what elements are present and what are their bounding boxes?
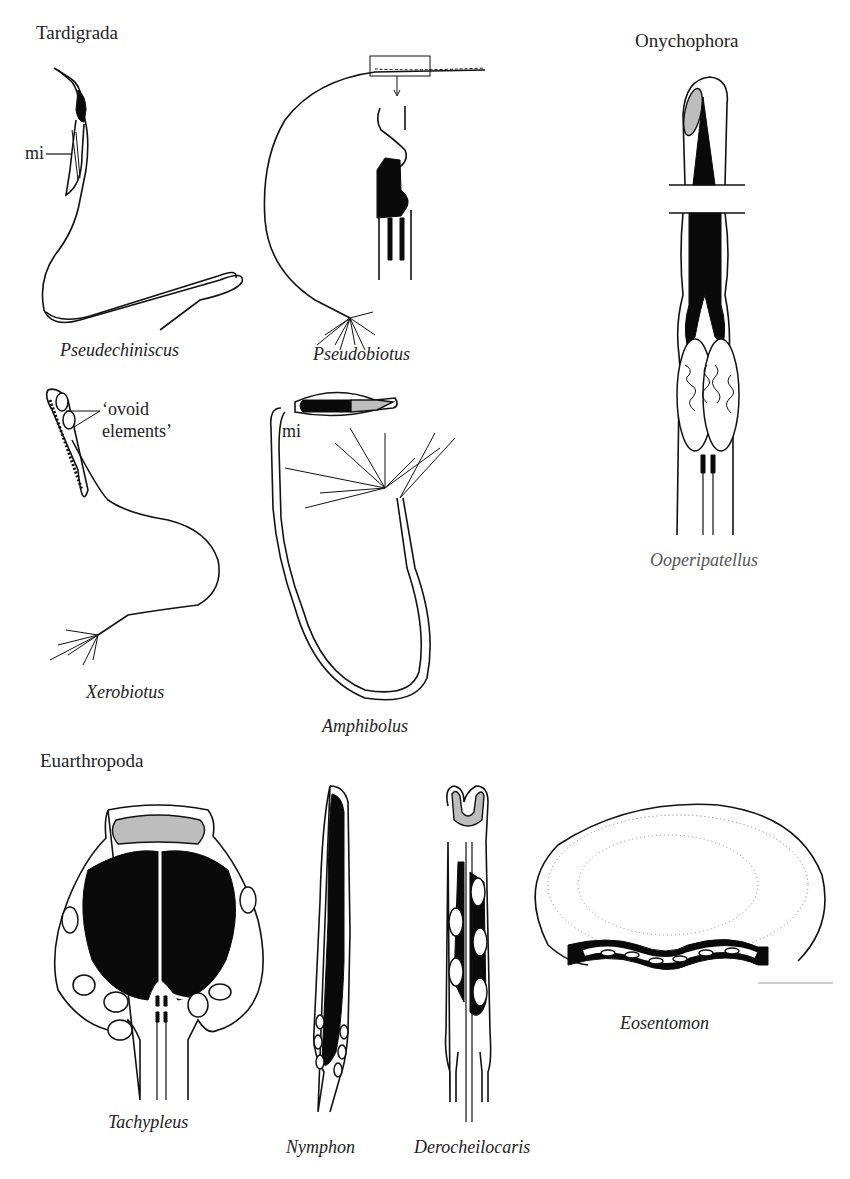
taxon-label-pseudechiniscus: Pseudechiniscus	[60, 340, 179, 361]
taxon-label-tachypleus: Tachypleus	[108, 1112, 188, 1133]
group-title-tardigrada: Tardigrada	[36, 22, 118, 44]
taxon-label-amphibolus: Amphibolus	[322, 716, 408, 737]
ooperipatellus-sperm-drawing	[665, 75, 795, 565]
taxon-label-ooperipatellus: Ooperipatellus	[650, 550, 758, 571]
ovoid-elements-label: ‘ovoid elements’	[102, 398, 172, 442]
derocheilocaris-sperm-drawing	[440, 782, 500, 1122]
taxon-label-xerobiotus: Xerobiotus	[86, 682, 164, 703]
group-title-onychophora: Onychophora	[635, 30, 738, 52]
group-title-euarthropoda: Euarthropoda	[40, 750, 143, 772]
taxon-label-nymphon: Nymphon	[286, 1137, 355, 1158]
taxon-label-eosentomon: Eosentomon	[620, 1013, 709, 1034]
ovoid-elements-line-1: ‘ovoid	[102, 398, 172, 420]
taxon-label-derocheilocaris: Derocheilocaris	[414, 1137, 530, 1158]
mi-label-amphibolus: mi	[282, 420, 301, 442]
pseudechiniscus-sperm-drawing	[30, 60, 290, 360]
tachypleus-sperm-drawing	[48, 800, 278, 1120]
ovoid-elements-line-2: elements’	[102, 420, 172, 442]
eosentomon-sperm-drawing	[528, 795, 838, 975]
mi-label-pseudechiniscus: mi	[25, 142, 44, 164]
nymphon-sperm-drawing	[310, 782, 360, 1122]
mi-leader-line	[46, 152, 76, 156]
taxon-label-pseudobiotus: Pseudobiotus	[313, 344, 410, 365]
pseudobiotus-sperm-drawing	[255, 50, 495, 350]
ovoid-elements-leader-lines	[66, 405, 106, 435]
